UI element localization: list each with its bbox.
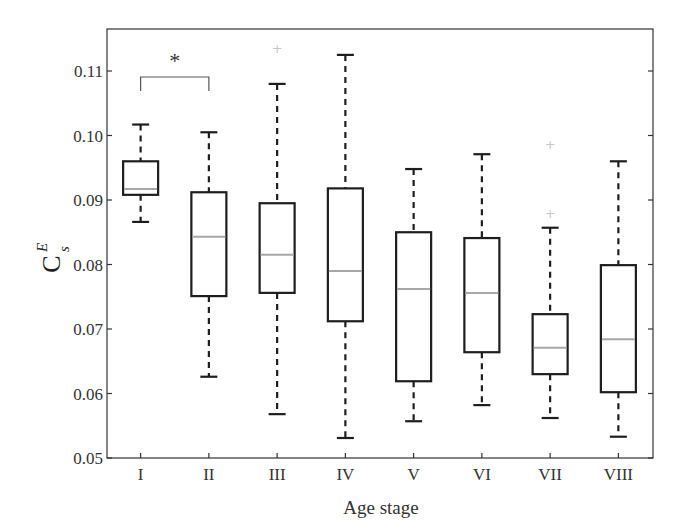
x-axis-title: Age stage [343,497,418,518]
box-V [396,169,431,421]
x-tick-label: I [138,465,144,484]
x-tick-label: II [203,465,215,484]
box-plot-chart: 0.050.060.070.080.090.100.11 IIIIIIIVVVI… [0,0,682,529]
y-tick-label: 0.08 [73,256,103,275]
y-axis-title-superscript: E [34,243,50,253]
outlier-marker: + [272,41,283,56]
y-tick-label: 0.05 [73,449,103,468]
iqr-box [533,314,568,374]
significance-bracket [141,77,209,91]
significance-star: * [169,48,180,73]
outlier-marker: + [545,206,556,221]
y-tick-label: 0.09 [73,191,103,210]
significance-annotation: * [141,48,209,91]
x-tick-label: IV [336,465,355,484]
box-III: + [260,41,295,414]
box-II [191,132,226,376]
y-tick-label: 0.07 [73,320,103,339]
x-tick-label: VIII [604,465,634,484]
box-I [123,125,158,222]
iqr-box [328,188,363,321]
iqr-box [260,203,295,293]
y-tick-label: 0.11 [74,62,103,81]
x-tick-label: VII [538,465,562,484]
y-tick-label: 0.06 [73,385,103,404]
box-VII: ++ [533,137,568,418]
y-tick-label: 0.10 [73,127,103,146]
box-IV [328,55,363,438]
outlier-marker: + [545,137,556,152]
y-axis-title-base: C [37,255,66,272]
y-axis-title-subscript: s [56,246,72,252]
iqr-box [191,192,226,296]
box-VI [464,154,499,405]
plot-border [107,29,653,458]
box-series: +++ [123,41,636,438]
plot-frame [107,29,653,458]
x-tick-label: VI [473,465,491,484]
x-tick-label: V [407,465,420,484]
x-tick-label: III [269,465,286,484]
iqr-box [396,232,431,381]
box-VIII [601,161,636,436]
iqr-box [601,265,636,392]
iqr-box [464,238,499,352]
y-axis-title: C E s [34,243,72,273]
